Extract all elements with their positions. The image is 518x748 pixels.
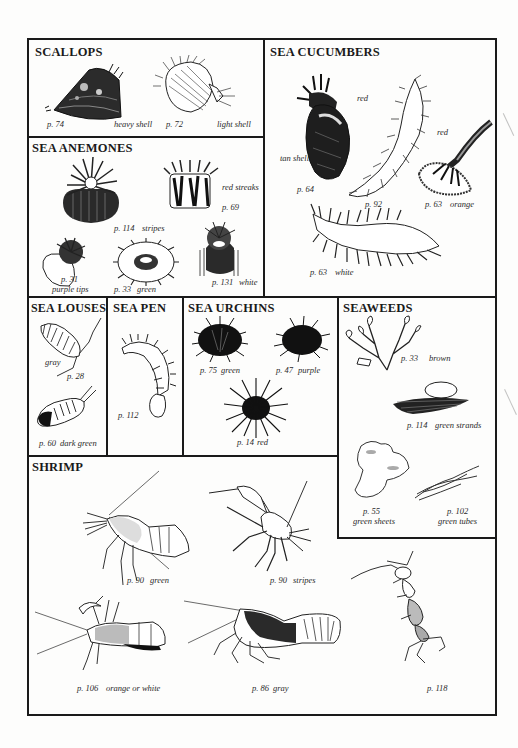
item-note: dark green [60,438,97,448]
item-note: stripes [142,223,165,233]
section-sea-cucumbers: SEA CUCUMBERS red tan shell p. 64 red p.… [265,40,495,296]
shrimp-gray-illustration [184,597,344,667]
item-note: stripes [293,575,316,585]
seaweed-green-strands-illustration [393,380,473,418]
item-page: p. 14 [237,437,254,447]
item-page: p. 64 [297,184,314,194]
anemone-white-illustration [194,220,244,278]
item-page: p. 75 [200,365,217,375]
item-note: orange or white [106,683,160,693]
section-scallops: SCALLOPS p. 74 heavy shell p. 72 light s… [29,40,263,136]
item-page: p. 33 [401,353,418,363]
item-note: white [239,277,257,287]
section-sea-pen: SEA PEN p. 112 [108,298,182,455]
item-page: p. 112 [118,410,139,420]
section-sea-urchins: SEA URCHINS p. 75 green p. 47 purple p. … [184,298,337,455]
shrimp-p118-illustration [351,547,461,667]
sea-louse-gray-illustration [35,316,105,378]
item-note: purple [298,365,320,375]
item-page: p. 47 [276,365,293,375]
item-page: p. 114 [407,420,428,430]
item-note: orange [450,199,474,209]
item-page: p. 114 [114,223,135,233]
item-page: p. 90 [270,575,287,585]
item-page: p. 63 [310,267,327,277]
section-title: SEA PEN [113,301,166,316]
item-page: p. 106 [77,683,98,693]
seaweed-brown-illustration [343,314,419,374]
section-shrimp: SHRIMP p. 90 green p. 90 stripes [29,457,495,714]
bleed-mark [504,389,517,415]
sea-urchin-red-illustration [224,378,288,438]
item-note: red streaks [222,182,259,192]
item-note: light shell [217,119,251,129]
item-page: p. 131 [212,277,233,287]
bleed-mark [503,113,514,136]
item-note: brown [429,353,450,363]
section-sea-anemones: SEA ANEMONES p. 114 stripes red streaks … [29,138,263,296]
item-note: heavy shell [114,119,152,129]
field-guide-page: SCALLOPS p. 74 heavy shell p. 72 light s… [0,0,518,748]
item-page: p. 72 [166,119,183,129]
item-page: p. 60 [39,438,56,448]
sea-louse-dark-green-illustration [34,384,100,430]
section-title: SCALLOPS [35,45,103,60]
item-page: p. 33 [114,284,131,294]
item-note: gray [45,357,61,367]
item-note: green [150,575,169,585]
sea-urchin-green-illustration [192,316,248,362]
section-sea-louses: SEA LOUSES gray p. 28 p. 60 dark green [29,298,106,455]
item-page: p. 28 [67,371,84,381]
sea-urchin-purple-illustration [274,316,330,362]
shrimp-orange-or-white-illustration [33,592,173,672]
item-page: p. 118 [427,683,448,693]
shrimp-stripes-illustration [207,477,317,577]
item-page: p. 90 [127,575,144,585]
scallop-heavy-shell-illustration [49,62,129,124]
section-title: SEA URCHINS [188,301,275,316]
item-note: green [137,284,156,294]
item-note: green strands [435,420,481,430]
item-note: gray [273,683,289,693]
item-note: purple tips [52,284,89,294]
item-page: p. 31 [61,274,78,284]
section-title: SEA CUCUMBERS [270,45,380,60]
item-page: p. 86 [252,683,269,693]
sea-cucumber-orange-illustration [415,120,495,200]
scallop-light-shell-illustration [151,56,241,118]
section-title: SEA LOUSES [31,301,106,316]
anemone-green-illustration [114,238,178,286]
item-page: p. 74 [47,119,64,129]
item-note: tan shell [280,153,309,163]
item-page: p. 69 [222,202,239,212]
item-note: white [335,267,353,277]
anemone-stripes-illustration [59,153,123,225]
sea-cucumber-white-illustration [307,200,447,272]
sea-pen-illustration [118,334,176,420]
item-note: red [257,437,268,447]
anemone-red-streaks-illustration [162,158,218,212]
item-note: green [221,365,240,375]
